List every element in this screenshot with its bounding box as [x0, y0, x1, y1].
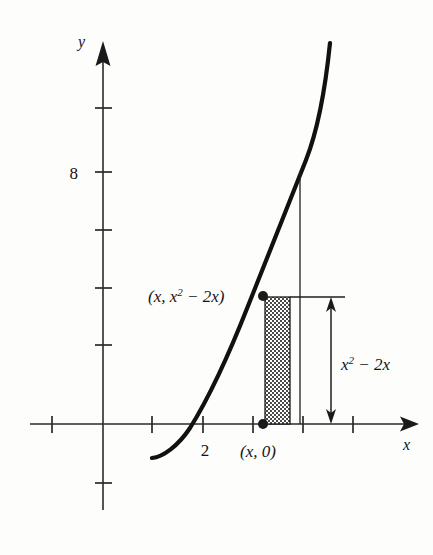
figure-container: y x 8 2 (x, x2 − 2x) (x, 0) x2 − 2x — [0, 0, 433, 555]
parabola-curve — [152, 43, 330, 458]
parabola-figure: y x 8 2 (x, x2 − 2x) (x, 0) x2 − 2x — [0, 0, 433, 555]
point-on-xaxis-dot — [258, 419, 268, 429]
y-tick-label-8: 8 — [70, 164, 79, 183]
representative-rectangle — [265, 297, 290, 424]
height-measure-label: x2 − 2x — [340, 354, 391, 374]
x-axis-label: x — [402, 436, 410, 453]
point-label-middle: − 2x) — [183, 287, 225, 306]
point-on-curve-label: (x, x2 − 2x) — [148, 286, 225, 306]
point-on-curve-dot — [258, 291, 268, 301]
y-axis-group — [95, 41, 112, 510]
x-axis-group — [30, 416, 419, 433]
x-tick-label-2: 2 — [201, 441, 210, 460]
height-measure-arrow — [326, 297, 336, 424]
height-label-suffix: − 2x — [354, 355, 390, 374]
y-axis-label: y — [76, 33, 86, 51]
point-on-xaxis-label: (x, 0) — [240, 442, 276, 461]
point-label-prefix: (x, x — [148, 287, 178, 306]
